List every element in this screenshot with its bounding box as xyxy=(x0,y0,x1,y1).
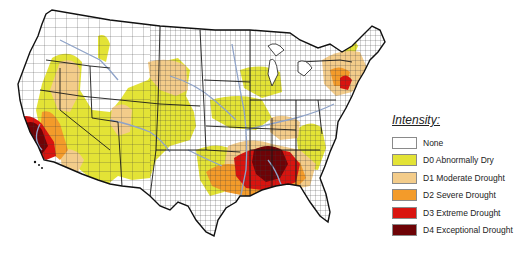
legend-title: Intensity: xyxy=(392,112,522,128)
legend-item-none: None xyxy=(392,134,522,152)
swatch-d0 xyxy=(392,154,417,166)
legend-item-d3: D3 Extreme Drought xyxy=(392,204,522,222)
swatch-d1 xyxy=(392,172,417,184)
swatch-d4 xyxy=(392,224,417,236)
swatch-d2 xyxy=(392,189,417,201)
intensity-legend: Intensity: None D0 Abnormally Dry D1 Mod… xyxy=(392,112,522,239)
swatch-none xyxy=(392,137,417,149)
legend-label: D1 Moderate Drought xyxy=(423,173,505,183)
legend-label: D2 Severe Drought xyxy=(423,190,496,200)
legend-label: D0 Abnormally Dry xyxy=(423,155,494,165)
legend-label: D3 Extreme Drought xyxy=(423,208,500,218)
legend-item-d2: D2 Severe Drought xyxy=(392,187,522,205)
legend-item-d4: D4 Exceptional Drought xyxy=(392,222,522,240)
channel-islands xyxy=(34,161,43,169)
legend-item-d1: D1 Moderate Drought xyxy=(392,169,522,187)
legend-item-d0: D0 Abnormally Dry xyxy=(392,152,522,170)
legend-label: None xyxy=(423,138,443,148)
swatch-d3 xyxy=(392,207,417,219)
county-boundaries-west xyxy=(0,0,150,271)
legend-label: D4 Exceptional Drought xyxy=(423,225,513,235)
county-boundaries-east xyxy=(150,0,410,271)
